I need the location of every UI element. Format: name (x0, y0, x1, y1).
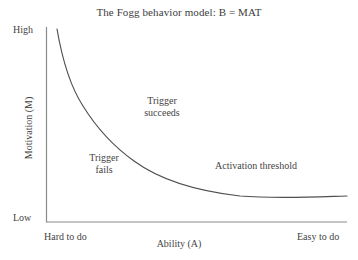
y-axis-max-tick-label: High (13, 24, 33, 36)
y-axis-min-tick-label: Low (13, 212, 31, 224)
annotation-trigger-succeeds: Trigger succeeds (122, 95, 202, 119)
annotation-trigger-fails: Trigger fails (68, 152, 140, 176)
annotation-activation-threshold: Activation threshold (215, 160, 297, 172)
x-axis-max-tick-label: Easy to do (297, 231, 339, 243)
annotation-trigger-fails-line-1: Trigger (68, 152, 140, 164)
chart-plot-area (0, 0, 358, 260)
fogg-behavior-model-chart: The Fogg behavior model: B = MAT Motivat… (0, 0, 358, 260)
annotation-trigger-succeeds-line-1: Trigger (122, 95, 202, 107)
annotation-trigger-succeeds-line-2: succeeds (122, 107, 202, 119)
annotation-trigger-fails-line-2: fails (68, 164, 140, 176)
y-axis-label: Motivation (M) (23, 73, 35, 183)
